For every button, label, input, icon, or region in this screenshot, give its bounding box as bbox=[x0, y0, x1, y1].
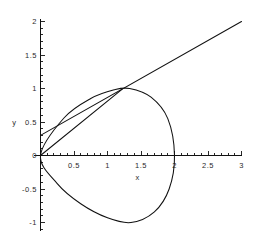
x-tick-label: 2.5 bbox=[202, 161, 214, 170]
x-tick-label: 3 bbox=[239, 161, 244, 170]
x-tick-label: 0.5 bbox=[68, 161, 80, 170]
y-axis-label: y bbox=[12, 118, 16, 127]
y-tick-label: 1 bbox=[32, 84, 37, 93]
tick-labels-group: 0.511.522.5321.510.50-0.5-1 bbox=[22, 17, 244, 227]
y-tick-label: 1.5 bbox=[25, 51, 37, 60]
y-tick-label: -1 bbox=[29, 218, 37, 227]
y-tick-label: -0.5 bbox=[22, 185, 37, 194]
y-tick-label: 0.5 bbox=[25, 118, 37, 127]
x-axis-label: x bbox=[135, 173, 139, 182]
y-tick-label: 0 bbox=[32, 151, 37, 160]
secant-line-through-origin bbox=[41, 89, 123, 155]
plot-canvas: 0.511.522.5321.510.50-0.5-1 x y bbox=[0, 0, 253, 239]
plot-figure: 0.511.522.5321.510.50-0.5-1 x y bbox=[0, 0, 253, 239]
tangent-line bbox=[41, 22, 242, 136]
tick-marks-group bbox=[41, 22, 242, 230]
x-tick-label: 1.5 bbox=[135, 161, 147, 170]
x-tick-label: 1 bbox=[105, 161, 110, 170]
y-tick-label: 2 bbox=[32, 17, 37, 26]
data-series-group bbox=[40, 22, 241, 223]
